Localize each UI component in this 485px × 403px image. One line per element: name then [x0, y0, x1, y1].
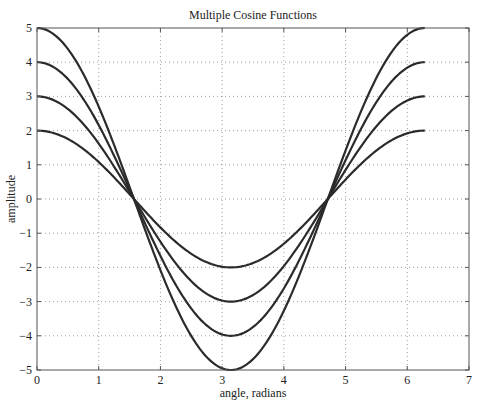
chart-background — [0, 0, 485, 403]
y-tick-label: −5 — [19, 363, 32, 377]
y-tick-label: −3 — [19, 295, 32, 309]
y-tick-label: 1 — [26, 158, 32, 172]
y-tick-label: −2 — [19, 260, 32, 274]
x-tick-label: 4 — [281, 373, 287, 387]
x-axis-label: angle, radians — [220, 386, 287, 400]
x-tick-label: 3 — [219, 373, 225, 387]
x-tick-label: 5 — [343, 373, 349, 387]
x-tick-label: 1 — [96, 373, 102, 387]
y-tick-label: 2 — [26, 124, 32, 138]
y-tick-label: 3 — [26, 89, 32, 103]
y-axis-label: amplitude — [4, 175, 18, 223]
y-tick-label: 4 — [26, 55, 32, 69]
x-tick-label: 7 — [466, 373, 472, 387]
x-tick-label: 6 — [404, 373, 410, 387]
chart-title: Multiple Cosine Functions — [189, 8, 317, 22]
chart: 01234567543210−1−2−3−4−5 Multiple Cosine… — [0, 0, 485, 403]
y-tick-label: 0 — [26, 192, 32, 206]
y-tick-label: −1 — [19, 226, 32, 240]
x-tick-label: 0 — [34, 373, 40, 387]
y-tick-label: 5 — [26, 21, 32, 35]
x-tick-label: 2 — [157, 373, 163, 387]
y-tick-label: −4 — [19, 329, 32, 343]
